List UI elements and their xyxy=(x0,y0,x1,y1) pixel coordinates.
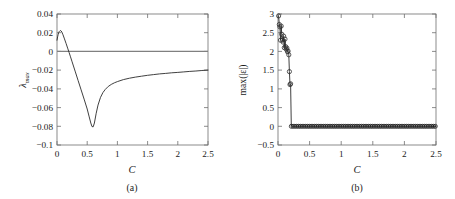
panel-a-axes xyxy=(57,14,208,145)
svg-text:−0.06: −0.06 xyxy=(32,103,54,113)
svg-text:1: 1 xyxy=(339,149,344,159)
svg-text:0.5: 0.5 xyxy=(263,103,275,113)
figure-container: 0.04 0.02 0 −0.02 −0.04 −0.06 −0.08 −0.1… xyxy=(0,0,455,199)
svg-text:2: 2 xyxy=(402,149,407,159)
svg-text:1.5: 1.5 xyxy=(263,65,275,75)
panel-a-ylabel: λmax xyxy=(17,72,30,89)
svg-text:−0.5: −0.5 xyxy=(257,140,274,150)
svg-text:1.5: 1.5 xyxy=(367,149,379,159)
zero-branch-markers xyxy=(289,124,437,128)
svg-text:0.02: 0.02 xyxy=(37,28,53,38)
lambda-max-curve xyxy=(57,31,208,127)
panel-a-plot: 0.04 0.02 0 −0.02 −0.04 −0.06 −0.08 −0.1… xyxy=(0,0,227,199)
svg-text:−0.08: −0.08 xyxy=(32,122,54,132)
panel-b-xtick-labels: 0 0.5 1 1.5 2 2.5 xyxy=(276,149,442,159)
panel-b-plot: 3 2.5 2 1.5 1 0.5 0 −0.5 0 0.5 1 1.5 2 2… xyxy=(228,0,455,199)
svg-text:2: 2 xyxy=(269,47,274,57)
svg-text:0: 0 xyxy=(55,149,60,159)
svg-text:2.5: 2.5 xyxy=(202,149,214,159)
svg-text:0: 0 xyxy=(48,47,53,57)
panel-b-ytick-labels: 3 2.5 2 1.5 1 0.5 0 −0.5 xyxy=(257,9,274,150)
panel-b-xlabel: C xyxy=(353,164,361,175)
svg-text:0: 0 xyxy=(269,122,274,132)
svg-text:−0.1: −0.1 xyxy=(36,140,53,150)
panel-a-caption: (a) xyxy=(127,182,138,194)
panel-a-xtick-labels: 0 0.5 1 1.5 2 2.5 xyxy=(55,149,214,159)
panel-a-xticks xyxy=(57,14,208,145)
svg-text:2.5: 2.5 xyxy=(263,28,275,38)
svg-text:−0.04: −0.04 xyxy=(32,84,54,94)
svg-text:3: 3 xyxy=(269,9,274,19)
svg-text:1.5: 1.5 xyxy=(142,149,154,159)
svg-text:λmax: λmax xyxy=(17,72,30,89)
data-markers xyxy=(277,14,293,87)
panel-b-caption: (b) xyxy=(351,182,362,194)
svg-text:max(|ε|): max(|ε|) xyxy=(237,65,249,96)
svg-text:0.5: 0.5 xyxy=(304,149,316,159)
panel-a-yticks xyxy=(57,14,208,145)
svg-text:1: 1 xyxy=(115,149,120,159)
svg-text:0.04: 0.04 xyxy=(37,9,53,19)
panel-b: 3 2.5 2 1.5 1 0.5 0 −0.5 0 0.5 1 1.5 2 2… xyxy=(228,0,455,199)
svg-text:0: 0 xyxy=(276,149,281,159)
svg-text:2: 2 xyxy=(176,149,181,159)
max-abs-e-curve xyxy=(279,16,436,126)
svg-text:0.5: 0.5 xyxy=(81,149,93,159)
svg-text:1: 1 xyxy=(269,84,274,94)
panel-a-ytick-labels: 0.04 0.02 0 −0.02 −0.04 −0.06 −0.08 −0.1 xyxy=(32,9,54,150)
panel-a: 0.04 0.02 0 −0.02 −0.04 −0.06 −0.08 −0.1… xyxy=(0,0,227,199)
svg-text:2.5: 2.5 xyxy=(430,149,442,159)
panel-b-ylabel: max(|ε|) xyxy=(237,65,249,96)
panel-a-xlabel: C xyxy=(128,164,136,175)
svg-text:−0.02: −0.02 xyxy=(32,65,54,75)
